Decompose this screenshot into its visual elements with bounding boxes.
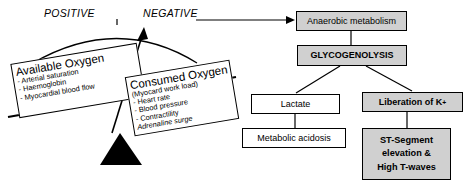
node-liberation-of-potassium-label: Liberation of K — [379, 97, 443, 108]
fulcrum-triangle — [100, 133, 142, 165]
diagram-canvas: POSITIVE NEGATIVE Available Oxygen Arter… — [0, 0, 467, 188]
needle-arrowhead — [137, 27, 148, 41]
node-st-segment-text: ST-Segment elevation & High T-waves — [377, 134, 436, 175]
potassium-superscript: + — [442, 97, 446, 108]
node-metabolic-acidosis: Metabolic acidosis — [242, 128, 346, 148]
st-line-1: ST-Segment — [380, 135, 433, 145]
st-line-2: elevation & — [382, 148, 431, 158]
st-line-3: High T-waves — [377, 162, 436, 172]
connector-glycogenolysis-potassium — [366, 66, 412, 91]
negative-to-anaerobic-arrowhead — [286, 16, 295, 24]
node-glycogenolysis: GLYCOGENOLYSIS — [297, 45, 407, 66]
scale-label-negative: NEGATIVE — [143, 7, 198, 19]
node-st-segment-elevation: ST-Segment elevation & High T-waves — [362, 128, 451, 180]
scale-label-positive: POSITIVE — [44, 7, 95, 19]
connector-glycogenolysis-lactate — [296, 66, 340, 93]
node-liberation-of-potassium: Liberation of K+ — [362, 92, 463, 112]
node-anaerobic-metabolism: Anaerobic metabolism — [296, 11, 407, 31]
node-lactate: Lactate — [251, 94, 340, 114]
